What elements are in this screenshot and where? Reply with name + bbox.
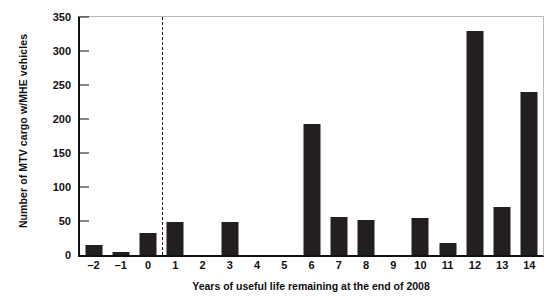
plot-area: 050100150200250300350–2–1012345678910111…	[78, 16, 544, 257]
y-axis-tick-mark	[80, 221, 89, 222]
x-axis-tick-label: 0	[145, 259, 151, 271]
bar	[357, 220, 374, 255]
y-axis-tick-label: 200	[53, 113, 80, 125]
x-axis-tick-label: 11	[442, 259, 454, 271]
y-axis-tick-mark	[80, 153, 89, 154]
x-axis-tick-label: 9	[390, 259, 396, 271]
x-axis-tick-label: 13	[496, 259, 508, 271]
y-axis-tick-label: 50	[59, 215, 80, 227]
y-axis-tick-label: 250	[53, 79, 80, 91]
y-axis-tick-label: 300	[53, 45, 80, 57]
y-axis-title: Number of MTV cargo w/MHE vehicles	[17, 16, 29, 246]
bar	[221, 222, 238, 255]
x-axis-tick-label: 10	[414, 259, 426, 271]
bar	[330, 217, 347, 255]
bar	[140, 233, 157, 255]
x-axis-tick-label: 7	[336, 259, 342, 271]
bar	[466, 31, 483, 255]
y-axis-tick-mark	[80, 119, 89, 120]
bar	[494, 207, 511, 255]
y-axis-tick-mark	[80, 85, 89, 86]
y-axis-tick-label: 350	[53, 11, 80, 23]
bar	[167, 222, 184, 255]
y-axis-tick-mark	[80, 51, 89, 52]
y-axis-tick-mark	[80, 187, 89, 188]
x-axis-tick-label: 5	[281, 259, 287, 271]
bar	[85, 245, 102, 255]
bar	[521, 92, 538, 255]
y-axis-tick-label: 100	[53, 181, 80, 193]
bar	[412, 218, 429, 255]
x-axis-tick-label: 8	[363, 259, 369, 271]
x-axis-tick-label: 3	[227, 259, 233, 271]
x-axis-tick-label: 2	[199, 259, 205, 271]
bar	[303, 124, 320, 255]
dashed-divider-line	[162, 17, 163, 255]
x-axis-tick-label: 12	[469, 259, 481, 271]
y-axis-tick-label: 150	[53, 147, 80, 159]
y-axis-tick-mark	[80, 17, 89, 18]
x-axis-tick-label: 1	[172, 259, 178, 271]
x-axis-tick-label: 6	[308, 259, 314, 271]
y-axis-tick-label: 0	[65, 249, 80, 261]
bar	[112, 252, 129, 255]
x-axis-tick-label: 14	[523, 259, 535, 271]
x-axis-tick-label: 4	[254, 259, 260, 271]
bar	[439, 243, 456, 255]
x-axis-title: Years of useful life remaining at the en…	[78, 280, 544, 292]
bar-chart-figure: Number of MTV cargo w/MHE vehicles 05010…	[0, 0, 556, 301]
x-axis-tick-label: –2	[87, 259, 99, 271]
bars-layer	[80, 17, 543, 255]
x-axis-tick-label: –1	[115, 259, 127, 271]
